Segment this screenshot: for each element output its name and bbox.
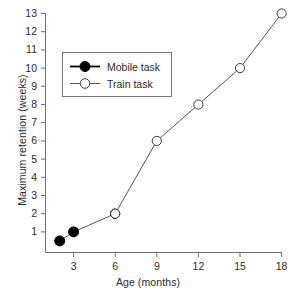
x-tick-label: 18	[276, 260, 288, 272]
legend-marker-filled-circle-icon	[80, 62, 90, 72]
y-tick-label: 2	[31, 207, 37, 219]
x-tick-label: 9	[154, 260, 160, 272]
chart-background	[0, 0, 296, 295]
y-tick-label: 4	[31, 171, 37, 183]
y-tick-label: 8	[31, 98, 37, 110]
x-tick-label: 3	[71, 260, 77, 272]
data-point-open	[152, 136, 161, 145]
data-point-open	[235, 64, 244, 73]
y-tick-label: 12	[25, 25, 37, 37]
figure-container: 13 12 11 10 9 8 7 6 5 4 3 2 1	[0, 0, 296, 295]
retention-line-chart: 13 12 11 10 9 8 7 6 5 4 3 2 1	[0, 0, 296, 295]
y-tick-label: 6	[31, 134, 37, 146]
y-tick-label: 1	[31, 225, 37, 237]
x-tick-label: 6	[112, 260, 118, 272]
x-tick-label: 12	[193, 260, 205, 272]
caption-partial-line	[2, 286, 294, 294]
data-point-filled	[69, 227, 79, 237]
chart-legend: Mobile task Train task	[63, 53, 172, 97]
data-point-open-overlay	[111, 209, 120, 218]
data-point-open	[277, 9, 286, 18]
x-tick-label: 15	[234, 260, 246, 272]
y-tick-label: 13	[25, 7, 37, 19]
legend-box	[63, 53, 172, 97]
y-tick-label: 7	[31, 116, 37, 128]
y-tick-label: 9	[31, 80, 37, 92]
legend-label-train-task: Train task	[107, 78, 153, 90]
y-tick-label: 3	[31, 189, 37, 201]
legend-marker-open-circle-icon	[80, 79, 90, 89]
legend-label-mobile-task: Mobile task	[107, 61, 161, 73]
y-tick-label: 5	[31, 153, 37, 165]
data-point-filled	[55, 236, 65, 246]
data-point-open	[194, 100, 203, 109]
y-axis-title: Maximum retention (weeks)	[16, 40, 28, 240]
